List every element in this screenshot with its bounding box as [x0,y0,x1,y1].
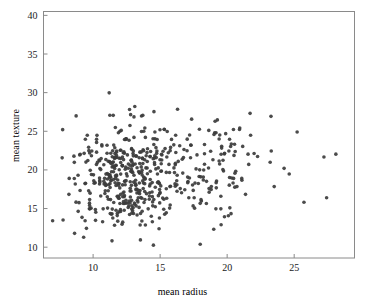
data-point [148,184,152,188]
data-point [73,232,77,236]
data-point [124,179,128,183]
data-point [224,132,228,136]
data-point [113,223,117,227]
data-point [168,203,172,207]
data-point [118,202,122,206]
data-point [195,153,199,157]
data-point [175,179,179,183]
data-point [130,167,134,171]
data-point [92,173,96,177]
y-tick-label: 25 [28,126,38,137]
data-point [103,192,107,196]
data-point [110,239,114,243]
data-point [135,166,139,170]
data-point [88,198,92,202]
data-point [191,204,195,208]
data-point [143,198,147,202]
data-point [114,174,118,178]
data-point [74,114,78,118]
x-tick-label: 25 [289,262,299,273]
data-point [141,162,145,166]
data-point [83,219,87,223]
data-point [269,149,273,153]
data-point [72,154,76,158]
data-point [172,166,176,170]
data-point [146,147,150,151]
scatter-plot-figure: mean texture mean radius 10152025 101520… [0,0,365,305]
data-point [87,149,91,153]
data-point [122,208,126,212]
data-point [164,171,168,175]
data-point [82,235,86,239]
data-point [192,196,196,200]
data-point [178,187,182,191]
data-point [135,213,139,217]
data-point [149,214,153,218]
data-point [124,198,128,202]
data-point [126,166,130,170]
data-point [252,152,256,156]
data-point [87,189,91,193]
data-point [172,143,176,147]
data-point [136,198,140,202]
data-point [116,182,120,186]
data-point [123,194,127,198]
data-point [144,136,148,140]
data-point [95,150,99,154]
data-point [89,206,93,210]
data-point [128,187,132,191]
data-point [249,133,253,137]
data-point [108,113,112,117]
data-point [103,177,107,181]
data-point [128,180,132,184]
data-point [76,173,80,177]
data-point [157,227,161,231]
x-axis-title: mean radius [0,286,365,297]
data-point [129,159,133,163]
data-point [122,150,126,154]
plot-canvas: 10152025 10152025303540 [0,0,365,305]
data-point [186,180,190,184]
data-point [99,168,103,172]
data-point [141,187,145,191]
data-point [101,220,105,224]
data-point [212,133,216,137]
data-point [282,167,286,171]
data-point [139,196,143,200]
data-point [174,151,178,155]
data-point [94,210,98,214]
data-point [168,185,172,189]
data-point [67,193,71,197]
data-point [126,153,130,157]
data-point [112,160,116,164]
data-point [198,168,202,172]
y-tick-label: 30 [28,87,38,98]
data-point [194,167,198,171]
data-point [51,219,55,223]
data-point [153,163,157,167]
data-point [205,202,209,206]
data-point [207,166,211,170]
data-point [219,223,223,227]
data-point [110,212,114,216]
data-point [182,156,186,160]
data-point [150,181,154,185]
data-point [67,177,71,181]
data-point [202,168,206,172]
data-point [148,194,152,198]
data-point [152,143,156,147]
data-point [190,117,194,121]
data-point [118,129,122,133]
data-point [218,162,222,166]
y-tick-label: 35 [28,49,38,60]
data-point [159,162,163,166]
data-point [219,194,223,198]
data-point [143,182,147,186]
data-point [60,156,64,160]
data-point [158,191,162,195]
data-point [149,150,153,154]
data-point [268,160,272,164]
data-point [181,171,185,175]
data-point [146,207,150,211]
data-point [133,162,137,166]
